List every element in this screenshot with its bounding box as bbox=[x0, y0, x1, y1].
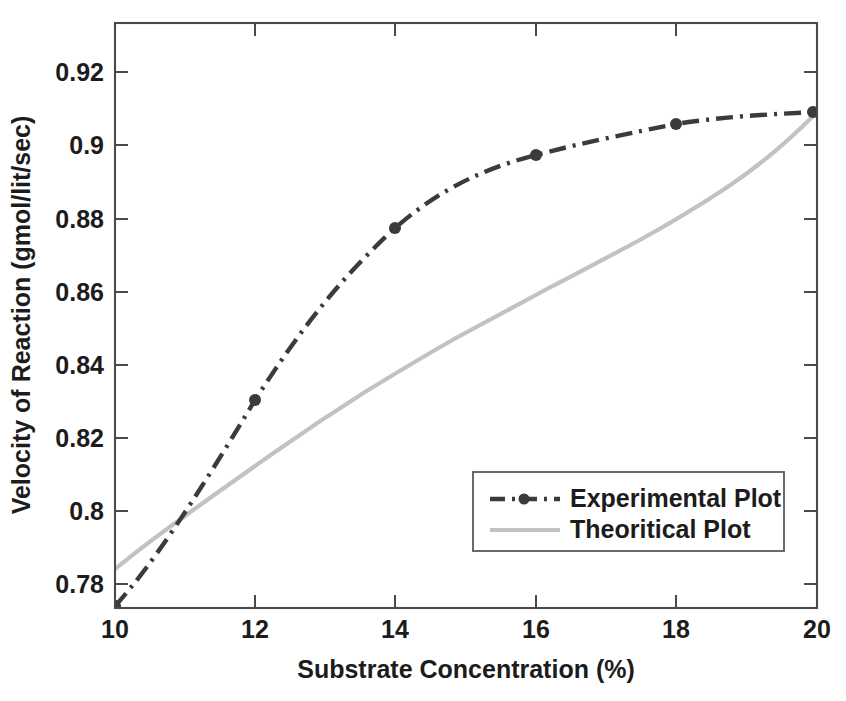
data-point-x14 bbox=[389, 222, 401, 234]
data-point-x12 bbox=[249, 394, 261, 406]
x-tick-label-10: 10 bbox=[101, 615, 129, 643]
data-point-x18 bbox=[670, 118, 682, 130]
y-tick-label-0.78: 0.78 bbox=[55, 570, 104, 598]
y-axis-tick-labels: 0.92 0.9 0.88 0.86 0.84 0.82 0.8 0.78 bbox=[55, 58, 104, 598]
y-tick-label-0.84: 0.84 bbox=[55, 351, 104, 379]
y-tick-label-0.82: 0.82 bbox=[55, 424, 104, 452]
y-tick-label-0.8: 0.8 bbox=[69, 497, 104, 525]
legend-label-experimental: Experimental Plot bbox=[570, 484, 782, 512]
data-point-x16 bbox=[530, 149, 542, 161]
x-tick-label-16: 16 bbox=[522, 615, 550, 643]
line-chart-canvas: 0.92 0.9 0.88 0.86 0.84 0.82 0.8 0.78 bbox=[0, 0, 846, 701]
x-tick-label-12: 12 bbox=[241, 615, 269, 643]
y-axis-title: Velocity of Reaction (gmol/lit/sec) bbox=[7, 116, 35, 515]
chart-figure: 0.92 0.9 0.88 0.86 0.84 0.82 0.8 0.78 bbox=[0, 0, 846, 701]
y-tick-label-0.9: 0.9 bbox=[69, 131, 104, 159]
y-tick-label-0.88: 0.88 bbox=[55, 205, 104, 233]
x-axis-tick-labels: 10 12 14 16 18 20 bbox=[101, 615, 831, 643]
legend-marker-experimental-icon bbox=[519, 494, 530, 505]
chart-legend[interactable]: Experimental Plot Theoritical Plot bbox=[473, 472, 784, 551]
x-axis-title: Substrate Concentration (%) bbox=[297, 655, 635, 683]
y-tick-label-0.86: 0.86 bbox=[55, 278, 104, 306]
legend-label-theoretical: Theoritical Plot bbox=[570, 515, 751, 543]
y-tick-label-0.92: 0.92 bbox=[55, 58, 104, 86]
x-tick-label-14: 14 bbox=[381, 615, 409, 643]
x-tick-label-20: 20 bbox=[803, 615, 831, 643]
x-tick-label-18: 18 bbox=[662, 615, 690, 643]
